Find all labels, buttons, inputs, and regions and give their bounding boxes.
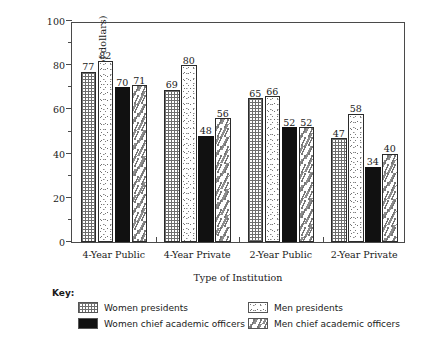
bar-value-label: 65	[249, 89, 261, 99]
bar-value-label: 47	[333, 129, 345, 139]
bar: 52	[299, 127, 315, 242]
bar-value-label: 69	[166, 80, 178, 90]
y-tick-major	[66, 153, 72, 154]
legend-swatch	[248, 302, 268, 313]
y-tick-label: 40	[53, 148, 65, 159]
x-axis-title: Type of Institution	[71, 272, 405, 283]
legend-swatch	[78, 302, 98, 313]
bar: 82	[98, 61, 114, 242]
bar-chart: Median Salary (in thousands of dollars) …	[0, 0, 424, 342]
y-tick-label: 100	[47, 16, 65, 27]
legend-item: Men presidents	[248, 302, 343, 313]
x-category-label: 4-Year Private	[164, 249, 231, 260]
plot-area: Median Salary (in thousands of dollars) …	[71, 22, 405, 243]
bar: 52	[282, 127, 298, 242]
y-tick-minor	[68, 86, 72, 87]
x-tick-divider	[239, 237, 240, 242]
x-tick-divider	[323, 237, 324, 242]
bar-value-label: 34	[367, 157, 379, 167]
legend-title: Key:	[52, 288, 74, 298]
bar: 58	[348, 114, 364, 242]
bar: 48	[198, 136, 214, 242]
legend-label: Men chief academic officers	[274, 319, 400, 329]
bar-value-label: 52	[300, 118, 312, 128]
y-tick-major	[66, 64, 72, 65]
y-tick-minor	[68, 42, 72, 43]
legend-item: Women presidents	[78, 302, 188, 313]
bar-value-label: 80	[183, 56, 195, 66]
bar-value-label: 77	[82, 62, 94, 72]
bar-value-label: 48	[200, 126, 212, 136]
bar-value-label: 71	[133, 76, 145, 86]
y-tick-label: 80	[53, 60, 65, 71]
legend: Key: Women presidentsMen presidentsWomen…	[52, 288, 412, 338]
y-tick-major	[66, 197, 72, 198]
y-tick-major	[66, 241, 72, 242]
bar-value-label: 56	[217, 109, 229, 119]
legend-swatch	[78, 318, 98, 329]
y-tick-minor	[68, 175, 72, 176]
bar-value-label: 52	[283, 118, 295, 128]
x-category-label: 2-Year Public	[250, 249, 313, 260]
legend-item: Women chief academic officers	[78, 318, 245, 329]
bar: 80	[181, 65, 197, 242]
legend-label: Women chief academic officers	[104, 319, 245, 329]
legend-label: Women presidents	[104, 303, 188, 313]
bar-value-label: 82	[99, 51, 111, 61]
bar-value-label: 70	[116, 78, 128, 88]
y-tick-minor	[68, 219, 72, 220]
y-tick-label: 20	[53, 192, 65, 203]
legend-swatch	[248, 318, 268, 329]
legend-label: Men presidents	[274, 303, 343, 313]
bar-value-label: 40	[384, 144, 396, 154]
bar: 70	[115, 87, 131, 242]
bar: 66	[265, 96, 281, 242]
bar: 71	[132, 85, 148, 242]
legend-item: Men chief academic officers	[248, 318, 400, 329]
y-tick-minor	[68, 131, 72, 132]
bar: 47	[331, 138, 347, 242]
y-tick-major	[66, 108, 72, 109]
bar: 69	[164, 90, 180, 242]
bar-value-label: 58	[350, 104, 362, 114]
bar-value-label: 66	[266, 87, 278, 97]
x-tick-divider	[156, 237, 157, 242]
y-tick-label: 0	[59, 237, 65, 248]
bar: 65	[248, 98, 264, 242]
bar: 56	[215, 118, 231, 242]
y-tick-major	[66, 20, 72, 21]
bar: 34	[365, 167, 381, 242]
x-category-label: 4-Year Public	[83, 249, 146, 260]
bar: 77	[81, 72, 97, 242]
x-category-label: 2-Year Private	[331, 249, 398, 260]
y-tick-label: 60	[53, 104, 65, 115]
bar: 40	[382, 154, 398, 242]
